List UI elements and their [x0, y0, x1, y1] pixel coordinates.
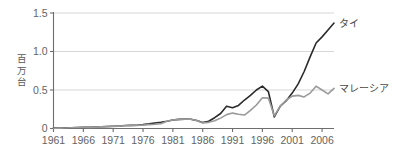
- x-tick-label: 1996: [251, 134, 275, 146]
- y-tick-label: 0: [42, 122, 48, 134]
- x-tick-label: 1961: [42, 134, 66, 146]
- x-tick-label: 1986: [191, 134, 215, 146]
- series-label: マレーシア: [339, 83, 389, 94]
- data-series: [54, 23, 335, 128]
- x-tick-label: 1966: [72, 134, 96, 146]
- y-axis-title: 百万台: [17, 53, 27, 87]
- y-tick-label: 0.5: [33, 84, 48, 96]
- axis-lines: [54, 12, 335, 129]
- y-axis-title-char: 万: [17, 65, 27, 76]
- y-tick-label: 1.5: [33, 7, 48, 19]
- y-axis-title-char: 百: [17, 53, 27, 64]
- y-axis-tick-labels: 00.51.01.5: [33, 7, 48, 135]
- x-tick-label: 1971: [102, 134, 126, 146]
- y-tick-label: 1.0: [33, 45, 48, 57]
- chart-container: 1961196619711976198119861991199620012006…: [0, 0, 393, 155]
- x-tick-label: 1976: [131, 134, 155, 146]
- gridlines: [54, 13, 335, 90]
- line-chart-svg: 1961196619711976198119861991199620012006…: [0, 0, 393, 155]
- series-labels: タイマレーシア: [339, 18, 389, 94]
- x-tick-label: 2006: [310, 134, 334, 146]
- x-axis-tick-labels: 1961196619711976198119861991199620012006: [42, 134, 334, 146]
- y-axis-title-char: 台: [17, 76, 27, 87]
- x-tick-label: 1981: [161, 134, 185, 146]
- series-line: [54, 23, 335, 128]
- series-label: タイ: [339, 18, 359, 29]
- x-tick-label: 1991: [221, 134, 245, 146]
- x-tick-label: 2001: [281, 134, 305, 146]
